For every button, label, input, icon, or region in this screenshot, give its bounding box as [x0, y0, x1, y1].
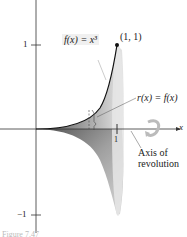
function-leader [98, 60, 106, 80]
point-label: (1, 1) [120, 31, 142, 42]
x-tick-label-1: 1 [114, 135, 118, 144]
x-axis-label: x [179, 122, 183, 132]
radius-label: r(x) = f(x) [137, 92, 178, 103]
end-disk [112, 44, 124, 216]
axis-label-line2: revolution [138, 158, 179, 169]
solid-lower-surface [36, 129, 123, 215]
axis-leader [131, 131, 141, 148]
y-tick-label-neg1: −1 [17, 209, 27, 219]
axis-label-line1: Axis of [138, 147, 168, 158]
point-1-1 [115, 43, 119, 47]
solid-upper-surface [36, 45, 124, 129]
figure-caption: Figure 7.47 [2, 230, 39, 237]
y-tick-label-1: 1 [23, 39, 28, 49]
function-label: f(x) = x³ [62, 34, 99, 45]
